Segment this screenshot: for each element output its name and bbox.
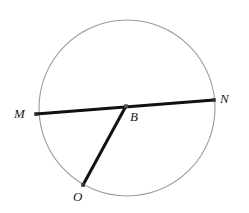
point-label-b: B	[130, 110, 138, 123]
point-label-o: O	[73, 190, 82, 203]
geometry-canvas	[0, 0, 249, 213]
point-marker-o	[81, 183, 85, 187]
point-marker-b	[124, 104, 128, 108]
point-marker-n	[212, 98, 216, 102]
point-label-m: M	[14, 107, 25, 120]
geometry-figure: M B N O	[0, 0, 249, 213]
point-label-n: N	[220, 92, 229, 105]
point-marker-m	[34, 112, 38, 116]
radius-b-o	[83, 106, 126, 185]
